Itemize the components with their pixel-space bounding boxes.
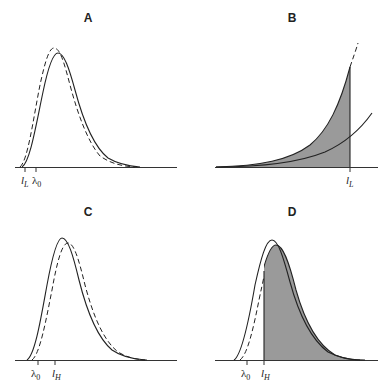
panel-c-tick-label-lH: lH [52, 367, 62, 382]
panel-b-title: B [288, 11, 297, 25]
panel-a-dashed-curve [20, 48, 135, 167]
panel-d: D λ0 lH [215, 205, 378, 382]
panel-a: A lL λ0 [15, 11, 177, 189]
panel-b-steep-curve-extension [350, 43, 358, 67]
panel-b-tick-label-lL: lL [346, 174, 354, 189]
panel-a-solid-curve [22, 53, 140, 167]
panel-c-solid-curve [27, 238, 145, 360]
panel-d-shaded-area [236, 245, 365, 360]
panel-a-title: A [84, 11, 93, 25]
panel-c-dashed-curve [32, 243, 148, 360]
panel-a-tick-label-lambda0: λ0 [32, 174, 41, 189]
panel-d-tick-label-lH: lH [261, 367, 271, 382]
panel-d-dashed-curve [240, 276, 264, 360]
figure: A lL λ0 B lL C [0, 0, 390, 387]
panel-d-tick-label-lambda0: λ0 [241, 367, 250, 382]
panel-b: B lL [215, 11, 378, 189]
panel-d-title: D [288, 205, 297, 219]
panel-a-tick-label-lL: lL [21, 174, 29, 189]
panel-c: C λ0 lH [15, 205, 177, 382]
panel-b-shaded-area [216, 67, 350, 167]
panel-c-title: C [84, 205, 93, 219]
panel-c-tick-label-lambda0: λ0 [31, 367, 40, 382]
